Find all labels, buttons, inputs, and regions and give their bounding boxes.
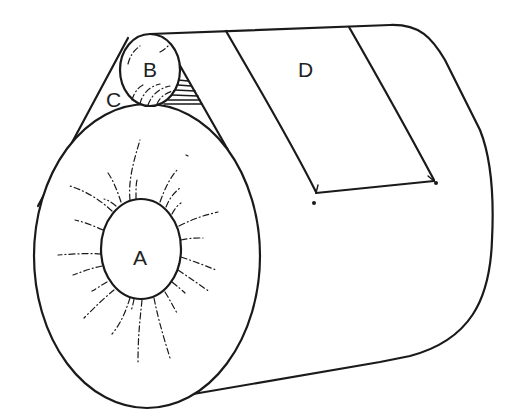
roll-belt-diagram: A B C D	[0, 0, 515, 416]
label-d: D	[298, 58, 313, 81]
marker-dot-left	[312, 201, 316, 205]
label-b: B	[143, 58, 157, 81]
marker-dot-right	[434, 181, 438, 185]
panel-d	[226, 27, 438, 205]
label-c: C	[106, 88, 121, 111]
label-a: A	[133, 246, 147, 269]
